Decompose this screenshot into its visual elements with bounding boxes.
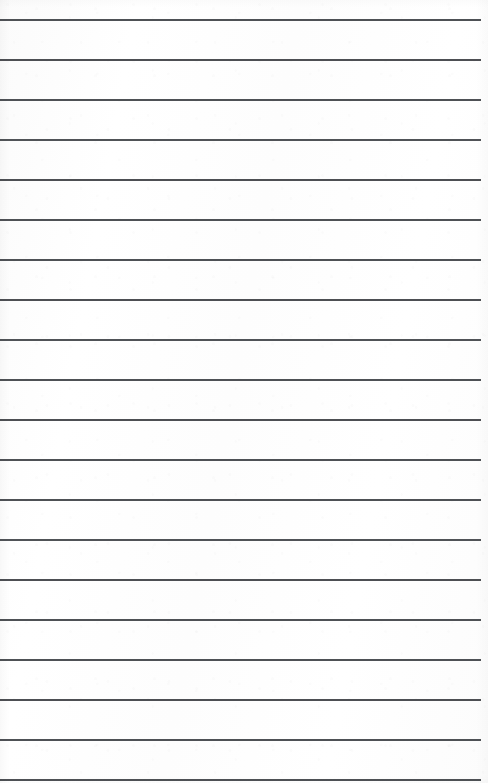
ruled-line [0, 139, 481, 141]
ruled-line [0, 499, 481, 501]
ruled-line [0, 99, 481, 101]
ruled-line [0, 539, 481, 541]
ruled-line [0, 779, 481, 781]
scanned-page [0, 0, 488, 783]
ruled-line [0, 299, 481, 301]
ruled-line [0, 339, 481, 341]
ruled-line [0, 459, 481, 461]
ruled-line [0, 579, 481, 581]
ruled-line [0, 619, 481, 621]
ruled-line [0, 659, 481, 661]
ruled-line [0, 59, 481, 61]
ruled-line [0, 219, 481, 221]
ruled-line [0, 699, 481, 701]
ruled-line [0, 19, 481, 21]
ruled-line [0, 419, 481, 421]
ruled-line [0, 259, 481, 261]
ruled-line [0, 379, 481, 381]
ruled-line [0, 179, 481, 181]
ruled-lines-layer [0, 0, 488, 783]
ruled-line [0, 739, 481, 741]
